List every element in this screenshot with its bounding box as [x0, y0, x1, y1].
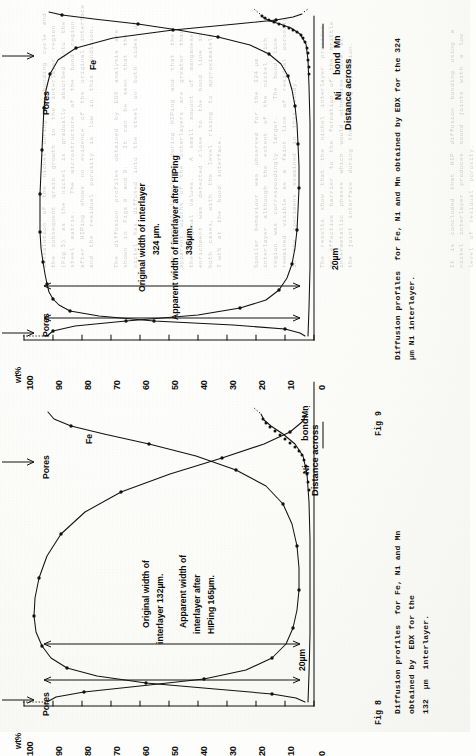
figure-8-caption: Diffusion profiles for Fe, Ni and Mn [392, 531, 405, 714]
fig8-y-axis-label: wt% [13, 733, 23, 749]
fig8-ytick-70: 70 [112, 746, 122, 756]
fig8-x-axis-label-line1: Distance across [310, 425, 320, 496]
fig8-ytick-0: 0 [317, 751, 327, 756]
fig8-original-width-line1: Original width of [141, 560, 151, 628]
fig8-apparent-width-line3: HIPing 165µm. [206, 575, 216, 634]
fig9-series-ni-markers [38, 18, 286, 330]
fig8-series-ni-markers [32, 430, 291, 695]
fig8-original-width-line2: interlayer 132µm. [155, 574, 165, 644]
figure-8-svg [18, 374, 318, 714]
fig8-ytick-30: 30 [228, 746, 238, 756]
fig8-ytick-60: 60 [141, 746, 151, 756]
fig8-x-axis-label-line2: bond [300, 418, 310, 441]
fig9-original-width-text: Original width of interlayer [137, 183, 147, 292]
figure-9-caption-line1: Diffusion profiles for Fe, Ni and Mn obt… [393, 38, 402, 360]
fig8-ytick-10: 10 [286, 746, 296, 756]
fig9-x-axis-label-line1: Distance across [343, 59, 353, 130]
fig8-pores-arrows [2, 459, 34, 703]
figure-8-caption-line1: Diffusion profiles for Fe, Ni and Mn [393, 531, 402, 714]
fig8-ytick-50: 50 [170, 746, 180, 756]
fig8-label-mn: Mn [300, 406, 310, 418]
fig8-y-ticks [24, 701, 314, 706]
fig8-pores-label-upper: Pores [41, 455, 51, 479]
figure-9-caption-line2: µm Ni interlayer. [407, 276, 416, 360]
fig8-label-fe: Fe [84, 434, 94, 444]
fig9-x-axis-label-line2: bond [332, 52, 342, 75]
figure-8-tag: Fig 8 [374, 700, 383, 725]
figure-8-caption-2: obtained by EDX for the [406, 595, 419, 714]
fig9-apparent-width-value: 336µm. [184, 226, 194, 255]
fig8-series-fe [47, 412, 299, 702]
fig9-pores-arrows [2, 53, 34, 336]
fig8-label-ni: Ni [301, 465, 311, 474]
fig9-label-ni: Ni [333, 91, 343, 100]
fig8-series-ni [34, 414, 307, 702]
fig9-pores-label-upper: Pores [41, 91, 51, 115]
fig9-label-fe: Fe [88, 60, 98, 70]
fig9-series-mn-tail [254, 9, 260, 14]
fig8-ytick-40: 40 [199, 746, 209, 756]
figure-9-caption: Diffusion profiles for Fe, Ni and Mn obt… [392, 38, 405, 360]
fig8-apparent-width-line1: Apparent width of [178, 555, 188, 628]
fig9-scale-bar-label: 20µm [330, 248, 340, 270]
fig8-pores-label-lower: Pores [41, 692, 51, 716]
fig9-label-mn: Mn [332, 36, 342, 48]
fig9-series-mn-markers [261, 15, 311, 76]
fig9-series-mn [261, 15, 310, 336]
figure-9-caption-2: µm Ni interlayer. [406, 276, 419, 360]
fig8-ytick-80: 80 [83, 746, 93, 756]
figure-9-plot [18, 8, 318, 348]
fig9-y-ticks [24, 335, 314, 340]
fig8-width-markers [44, 641, 300, 683]
fig8-apparent-width-line2: interlayer after [192, 574, 202, 634]
figure-9-svg [18, 8, 318, 348]
fig8-scale-bar-label: 20µm [297, 649, 307, 671]
fig9-series-ni-tail [304, 9, 308, 12]
fig8-ytick-20: 20 [257, 746, 267, 756]
fig9-apparent-width-text: Apparent width of interlayer after HIPin… [170, 155, 180, 320]
figure-8-caption-line3: 132 µm interlayer. [421, 615, 430, 714]
figure-8-caption-3: 132 µm interlayer. [420, 615, 433, 714]
fig8-ytick-100: 100 [25, 742, 35, 756]
figure-8-caption-line2: obtained by EDX for the [407, 595, 416, 714]
fig9-original-width-value: 324 µm. [151, 223, 161, 255]
fig9-pores-label-lower: Pores [41, 313, 51, 337]
figure-8-plot [18, 374, 318, 714]
fig8-ytick-90: 90 [54, 746, 64, 756]
fig8-series-mn-tail [254, 408, 260, 413]
